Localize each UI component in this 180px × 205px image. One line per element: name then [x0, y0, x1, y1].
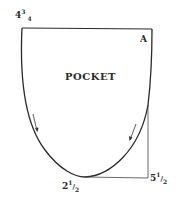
pocket-top-edge: [22, 28, 152, 29]
measurement-denominator: 2: [75, 186, 79, 193]
construction-horizontal-line: [85, 177, 148, 178]
measurement-bottom: 21/2: [62, 179, 79, 193]
measurement-denominator: 2: [163, 178, 167, 185]
arrow-right-icon: [129, 124, 136, 141]
measurement-bottom-right: 51/2: [150, 171, 167, 185]
pocket-outline-curve: [21, 28, 152, 177]
point-label-a: A: [140, 34, 147, 44]
pattern-title: POCKET: [65, 71, 116, 82]
measurement-denominator: 4: [28, 15, 32, 22]
measurement-top-left: 43 4: [15, 8, 32, 22]
